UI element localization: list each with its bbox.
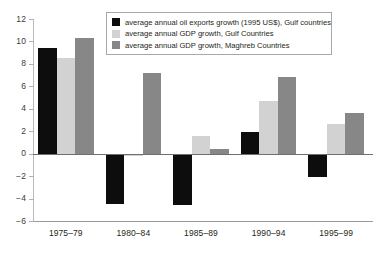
bar-1995-99-series-2 (345, 113, 364, 153)
y-tick-mark (29, 109, 34, 110)
chart-legend: average annual oil exports growth (1995 … (106, 12, 332, 55)
legend-item-gdp-gulf: average annual GDP growth, Gulf Countrie… (112, 28, 326, 39)
bar-chart: 121086420−2−4−6 1975–791980–841985–89199… (0, 0, 389, 253)
y-tick-mark (29, 221, 34, 222)
legend-label-series-1: average annual GDP growth, Gulf Countrie… (125, 29, 273, 38)
y-tick-label: 10 (0, 37, 26, 46)
bar-1985-89-series-0 (173, 154, 192, 206)
legend-label-series-0: average annual oil exports growth (1995 … (125, 18, 331, 27)
x-tick-label: 1990–94 (234, 228, 304, 238)
y-tick-label: 12 (0, 15, 26, 24)
y-tick-label: 2 (0, 127, 26, 136)
x-tick-label: 1985–89 (166, 228, 236, 238)
x-tick-label: 1995–99 (301, 228, 371, 238)
y-tick-mark (29, 41, 34, 42)
y-tick-mark (29, 131, 34, 132)
y-tick-mark (29, 86, 34, 87)
bar-1985-89-series-1 (192, 136, 211, 154)
y-tick-label: 4 (0, 104, 26, 113)
legend-item-gdp-maghreb: average annual GDP growth, Maghreb Count… (112, 40, 326, 51)
legend-swatch-series-0 (112, 18, 120, 26)
bar-1985-89-series-2 (210, 149, 229, 153)
legend-label-series-2: average annual GDP growth, Maghreb Count… (125, 41, 290, 50)
y-tick-label: 0 (0, 149, 26, 158)
y-tick-mark (29, 64, 34, 65)
y-tick-label: 6 (0, 82, 26, 91)
bar-1980-84-series-2 (143, 73, 162, 154)
y-tick-mark (29, 199, 34, 200)
bar-1975-79-series-0 (38, 48, 57, 153)
y-tick-label: −6 (0, 217, 26, 226)
bar-1975-79-series-1 (57, 58, 76, 153)
legend-swatch-series-1 (112, 30, 120, 38)
bar-1990-94-series-1 (259, 101, 278, 154)
bar-1995-99-series-1 (327, 124, 346, 153)
legend-item-oil-exports-gulf: average annual oil exports growth (1995 … (112, 17, 326, 28)
legend-swatch-series-2 (112, 41, 120, 49)
x-axis-line (33, 221, 373, 222)
y-tick-label: −4 (0, 194, 26, 203)
bar-1975-79-series-2 (75, 38, 94, 154)
x-tick-label: 1975–79 (31, 228, 101, 238)
bar-1990-94-series-0 (241, 132, 260, 153)
y-axis-line (33, 19, 34, 222)
y-tick-label: 8 (0, 59, 26, 68)
zero-baseline (33, 154, 373, 155)
y-tick-mark (29, 19, 34, 20)
bar-1990-94-series-2 (278, 77, 297, 153)
y-tick-label: −2 (0, 172, 26, 181)
x-tick-label: 1980–84 (98, 228, 168, 238)
y-tick-mark (29, 176, 34, 177)
bar-1980-84-series-0 (106, 154, 125, 205)
bar-1995-99-series-0 (308, 154, 327, 178)
